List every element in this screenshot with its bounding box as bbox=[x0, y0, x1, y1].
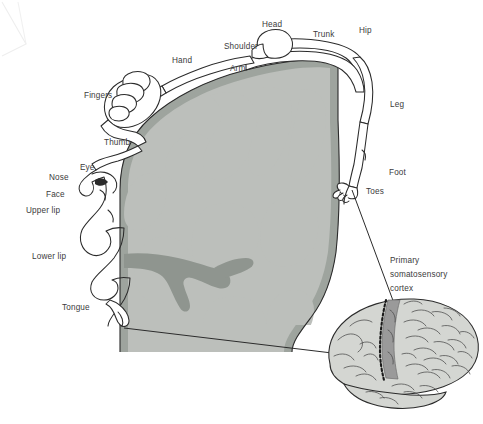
label-shoulder: Shoulder bbox=[224, 42, 258, 53]
homunculus-cheek-crease bbox=[108, 210, 113, 222]
label-toes: Toes bbox=[366, 187, 384, 198]
label-cortex-line2: somatosensory bbox=[390, 270, 447, 281]
leader-line-cortex-callout bbox=[352, 190, 398, 314]
label-hand: Hand bbox=[172, 56, 192, 67]
label-upper-lip: Upper lip bbox=[26, 206, 60, 217]
brain-lateral-view bbox=[329, 299, 479, 409]
label-trunk: Trunk bbox=[313, 30, 334, 41]
label-foot: Foot bbox=[389, 168, 406, 179]
label-fingers: Fingers bbox=[84, 91, 112, 102]
label-cortex-line1: Primary bbox=[390, 256, 419, 267]
label-cortex-line3: cortex bbox=[390, 284, 413, 295]
brain-cerebrum bbox=[329, 299, 479, 395]
label-lower-lip: Lower lip bbox=[32, 252, 66, 263]
label-head: Head bbox=[262, 20, 282, 31]
homunculus-figure: Head Trunk Hip Shoulder Arm Hand Fingers… bbox=[0, 0, 483, 424]
label-face: Face bbox=[46, 190, 65, 201]
label-tongue: Tongue bbox=[62, 303, 90, 314]
label-eye: Eye bbox=[80, 163, 95, 174]
label-arm: Arm bbox=[230, 64, 245, 75]
label-leg: Leg bbox=[390, 100, 404, 111]
label-hip: Hip bbox=[359, 26, 372, 37]
label-thumb: Thumb bbox=[104, 138, 130, 149]
page-corner-artifact bbox=[2, 2, 26, 56]
label-nose: Nose bbox=[49, 173, 69, 184]
